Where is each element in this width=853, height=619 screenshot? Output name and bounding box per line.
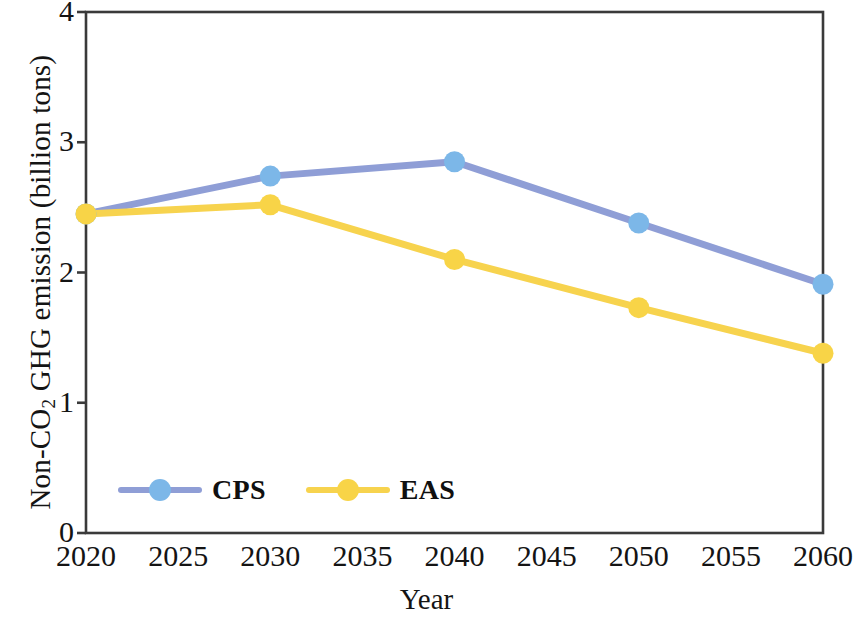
legend-entry-eas[interactable]: EAS xyxy=(306,474,455,506)
chart-legend: CPSEAS xyxy=(118,470,495,510)
data-point-eas-2060 xyxy=(813,343,834,364)
data-point-cps-2030 xyxy=(260,166,281,187)
legend-label: EAS xyxy=(400,474,455,506)
legend-marker-icon xyxy=(337,479,359,501)
plot-area xyxy=(0,0,853,619)
legend-swatch-eas xyxy=(306,479,390,501)
data-point-eas-2030 xyxy=(260,194,281,215)
data-point-cps-2060 xyxy=(813,274,834,295)
legend-label: CPS xyxy=(212,474,266,506)
x-axis-tick-labels: 202020252030203520402045205020552060 xyxy=(0,541,853,585)
data-point-cps-2050 xyxy=(628,213,649,234)
x-axis-tick-label: 2060 xyxy=(768,541,853,571)
chart-figure: Non-CO2 GHG emission (billion tons) 0123… xyxy=(0,0,853,619)
legend-swatch-cps xyxy=(118,479,202,501)
data-series-group xyxy=(76,151,834,363)
plot-frame xyxy=(86,12,823,533)
data-point-eas-2050 xyxy=(628,297,649,318)
data-point-eas-2020 xyxy=(76,203,97,224)
x-axis-title: Year xyxy=(0,583,853,616)
data-point-eas-2040 xyxy=(444,249,465,270)
series-line-eas xyxy=(86,205,823,353)
data-point-cps-2040 xyxy=(444,151,465,172)
legend-entry-cps[interactable]: CPS xyxy=(118,474,266,506)
legend-marker-icon xyxy=(149,479,171,501)
y-axis-tick-marks xyxy=(77,12,86,533)
